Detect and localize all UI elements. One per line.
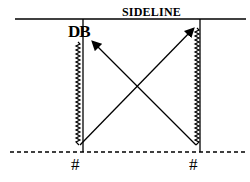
left-zigzag-route (76, 42, 80, 145)
left-hash-marker: # (71, 155, 80, 175)
db-label: DB (68, 22, 90, 42)
play-diagram (0, 0, 250, 182)
arrow-right-to-left (93, 42, 196, 145)
right-zigzag-route (195, 28, 199, 145)
sideline-label: SIDELINE (122, 5, 181, 20)
right-hash-marker: # (189, 155, 198, 175)
